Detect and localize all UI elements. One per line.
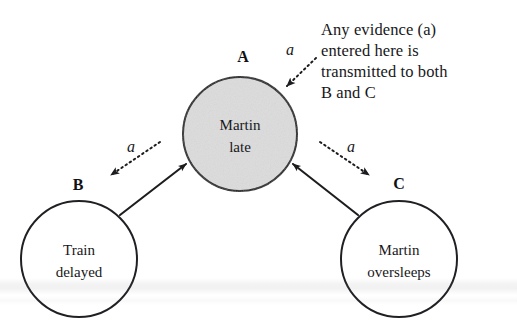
node-c-circle: [341, 201, 457, 317]
node-a[interactable]: Martin late: [183, 77, 297, 191]
evidence-into-a-label: a: [286, 41, 294, 58]
link-b-to-a: [120, 164, 186, 215]
evidence-into-a-arrow: [287, 58, 316, 86]
evidence-a-to-c-arrow: [320, 142, 369, 175]
evidence-a-to-b-label: a: [127, 138, 135, 155]
node-a-key: A: [237, 48, 249, 65]
node-a-label-line1: Martin: [220, 117, 261, 133]
node-a-label-line2: late: [229, 139, 251, 155]
node-c[interactable]: Martin oversleeps: [341, 201, 457, 317]
node-b-key: B: [73, 176, 84, 193]
node-b-circle: [21, 201, 137, 317]
evidence-annotation-text: Any evidence (a) entered here is transmi…: [321, 19, 511, 103]
node-b[interactable]: Train delayed: [21, 201, 137, 317]
node-c-label-line2: oversleeps: [367, 264, 430, 280]
diagram-canvas: Train delayed B Martin oversleeps C Mart…: [0, 0, 517, 333]
evidence-a-to-c-label: a: [347, 138, 355, 155]
node-c-label-line1: Martin: [379, 242, 420, 258]
node-b-label-line2: delayed: [56, 264, 103, 280]
link-c-to-a: [293, 164, 358, 215]
evidence-a-to-b-arrow: [111, 142, 160, 175]
node-b-label-line1: Train: [63, 242, 95, 258]
node-a-circle: [183, 77, 297, 191]
node-c-key: C: [393, 175, 405, 192]
